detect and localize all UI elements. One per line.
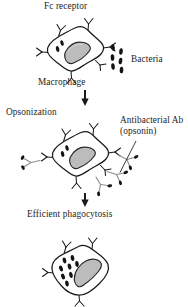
stage-phagocytosis [43,238,109,306]
antibody-complex [96,177,112,196]
arrow-stage1-to-stage2 [81,90,88,106]
fc-receptor-icon [96,61,101,66]
bacterium [21,165,26,171]
arrow-stage2-to-stage3 [81,193,88,207]
bacterium [119,48,123,55]
fc-receptor-icon [90,124,94,130]
fc-receptor-icon [115,148,121,152]
fc-receptor-icon [37,52,43,56]
antibody-icon [127,158,135,160]
fc-receptor-icon [100,65,101,71]
antibody-icon [25,163,32,167]
antibody-icon [119,155,128,160]
fc-receptor-icon [42,153,48,157]
fc-receptor-icon [37,48,43,52]
bacterium [111,44,115,51]
fc-receptor-icon [105,169,111,170]
antibody-icon [96,177,101,185]
fc-receptor-icon [85,19,89,25]
fc-receptor-icon [61,26,66,31]
diagram-canvas [0,0,188,307]
fc-receptor-icon [80,301,85,306]
fc-receptor-icon [57,25,61,31]
fc-receptor-icon [77,183,82,189]
fc-receptor-icon [62,129,66,135]
bacterium [107,184,112,188]
fc-receptor-icon [105,170,106,176]
bacterium [110,54,114,61]
bacterium [118,57,122,64]
fc-receptor-icon [94,124,99,130]
bacterium [20,155,25,161]
fc-receptor-icon [72,183,77,189]
antibody-icon [31,161,40,163]
bacterium [119,67,123,74]
fc-receptor-icon [100,64,106,65]
antibody-complex [119,154,140,170]
fc-receptor-icon [75,301,80,306]
fc-receptor-icon [79,295,80,301]
antibody-icon [99,185,101,193]
fc-receptor-icon [66,242,71,247]
free-bacteria-cluster [110,44,123,73]
antibody-complex [107,170,129,185]
fc-receptor-icon [42,157,48,161]
bacterium [111,63,115,70]
antibody-icon [127,160,130,167]
fc-receptor-icon [93,238,98,244]
fc-receptor-icon [71,71,72,78]
antibody-icon [117,173,125,175]
antibody-icon [107,172,117,175]
fc-receptor-icon [89,19,94,25]
fc-receptor-icon [89,238,93,244]
fc-receptor-icon [101,166,106,171]
fc-receptor-icon [63,241,67,247]
bacterium [123,170,129,175]
antibody-icon [101,185,109,186]
fc-receptor-icon [72,78,77,84]
fc-receptor-icon [43,269,49,273]
bacterium [97,191,100,196]
fc-receptor-icon [76,176,77,183]
antibody-icon [24,159,31,163]
stage-free-bacteria [37,19,124,84]
antibody-icon [117,175,120,182]
stage-opsonization [20,124,139,197]
fc-receptor-icon [43,273,49,277]
phagocytosis-diagram: Fc receptor Bacteria Macrophage Opsoniza… [0,0,188,307]
fc-receptor-icon [66,130,71,135]
antibody-complex [20,155,40,171]
bacterium [133,154,139,159]
fc-receptor-icon [67,78,72,84]
